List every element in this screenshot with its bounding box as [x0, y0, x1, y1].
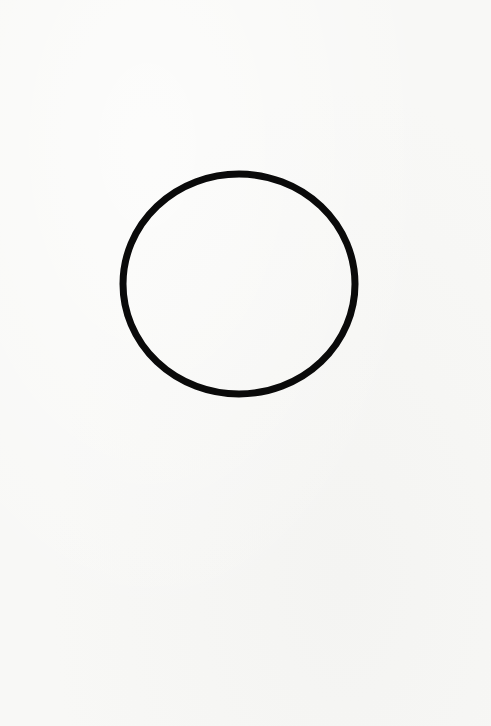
circle-outline	[123, 174, 355, 394]
circle-drawing	[0, 0, 491, 726]
paper-background	[0, 0, 491, 726]
